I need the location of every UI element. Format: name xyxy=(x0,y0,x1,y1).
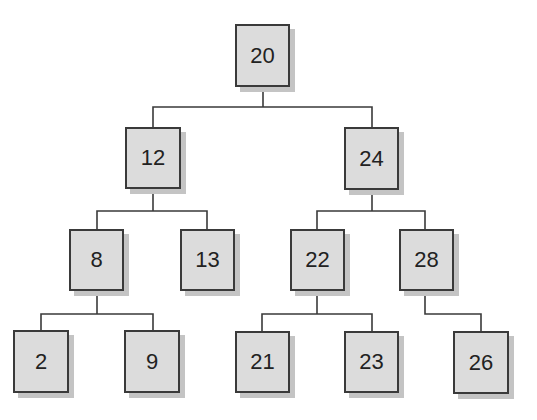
tree-node-24: 24 xyxy=(344,127,399,190)
tree-node-2: 2 xyxy=(13,330,69,393)
tree-node-20: 20 xyxy=(235,24,290,87)
node-label: 23 xyxy=(359,349,383,375)
node-label: 8 xyxy=(90,247,102,273)
tree-node-22: 22 xyxy=(290,229,345,291)
tree-edge xyxy=(262,314,372,331)
node-label: 9 xyxy=(146,349,158,375)
tree-node-9: 9 xyxy=(124,330,180,393)
tree-node-13: 13 xyxy=(180,229,235,291)
tree-node-28: 28 xyxy=(399,229,454,291)
node-label: 24 xyxy=(359,146,383,172)
node-label: 12 xyxy=(141,145,165,171)
node-label: 2 xyxy=(35,349,47,375)
node-label: 20 xyxy=(250,43,274,69)
tree-diagram: 20 12 24 8 13 22 28 2 9 21 23 26 xyxy=(0,0,537,420)
node-label: 13 xyxy=(195,247,219,273)
tree-edge xyxy=(153,107,372,127)
tree-edge xyxy=(317,211,425,229)
node-label: 22 xyxy=(305,247,329,273)
node-label: 28 xyxy=(414,247,438,273)
node-label: 26 xyxy=(469,350,493,376)
tree-edge xyxy=(41,314,153,330)
tree-node-12: 12 xyxy=(125,127,181,189)
tree-node-21: 21 xyxy=(235,331,290,393)
node-label: 21 xyxy=(250,349,274,375)
tree-edge xyxy=(425,291,481,331)
tree-edge xyxy=(97,211,207,229)
tree-node-8: 8 xyxy=(69,229,124,291)
tree-node-26: 26 xyxy=(453,331,509,394)
tree-node-23: 23 xyxy=(344,331,399,393)
